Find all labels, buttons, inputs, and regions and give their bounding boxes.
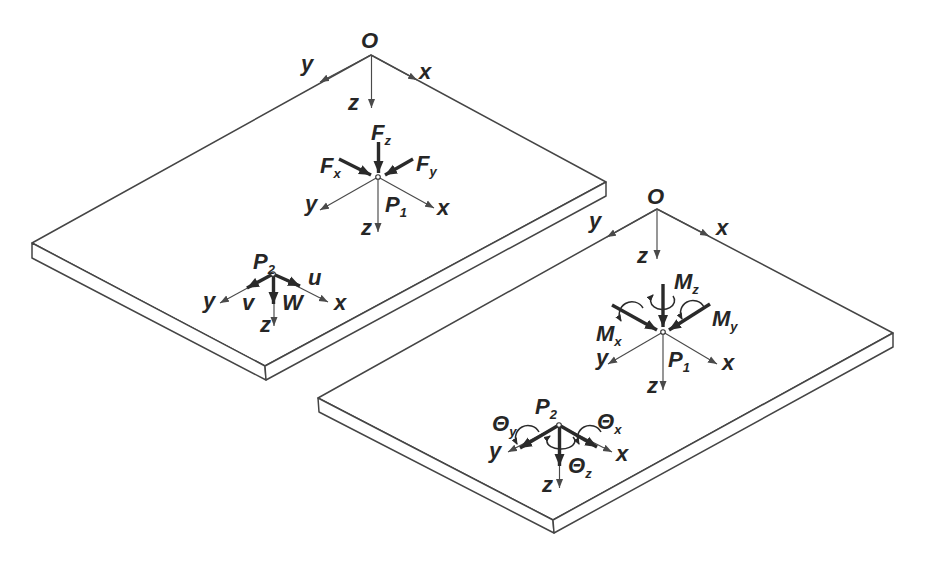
plates-diagram-canvas: O y x z Fz Fx Fy P1 y x z xyxy=(0,0,927,564)
left-p2-disp-u-label: u xyxy=(308,265,322,290)
right-p2-x-label: x xyxy=(615,441,629,466)
left-p1-x-label: x xyxy=(436,195,450,220)
left-origin-x-label: x xyxy=(418,59,432,84)
left-origin-label: O xyxy=(361,28,378,53)
right-origin-z-label: z xyxy=(636,243,648,268)
left-origin-y-label: y xyxy=(300,51,315,76)
right-origin-y-label: y xyxy=(588,208,603,233)
left-p2-x-label: x xyxy=(333,290,347,315)
left-p1-y-label: y xyxy=(304,191,319,216)
right-origin-x-label: x xyxy=(715,215,729,240)
right-origin-label: O xyxy=(647,184,664,209)
figure: O y x z Fz Fx Fy P1 y x z xyxy=(0,0,927,564)
right-p1-y-label: y xyxy=(595,345,610,370)
left-origin-z-label: z xyxy=(347,90,359,115)
left-p2-y-label: y xyxy=(202,288,217,313)
right-p2-point-marker xyxy=(557,423,562,428)
left-p2-disp-w-label: W xyxy=(282,290,305,315)
left-p1-z-label: z xyxy=(360,215,372,240)
right-p2-z-label: z xyxy=(541,472,553,497)
right-p2-y-label: y xyxy=(488,438,503,463)
left-p2-z-label: z xyxy=(259,312,271,337)
left-p1-point-marker xyxy=(376,175,381,180)
left-p2-disp-v-label: v xyxy=(242,290,256,315)
right-p1-point-marker xyxy=(661,330,666,335)
right-p1-z-label: z xyxy=(646,373,658,398)
right-p1-x-label: x xyxy=(721,350,735,375)
